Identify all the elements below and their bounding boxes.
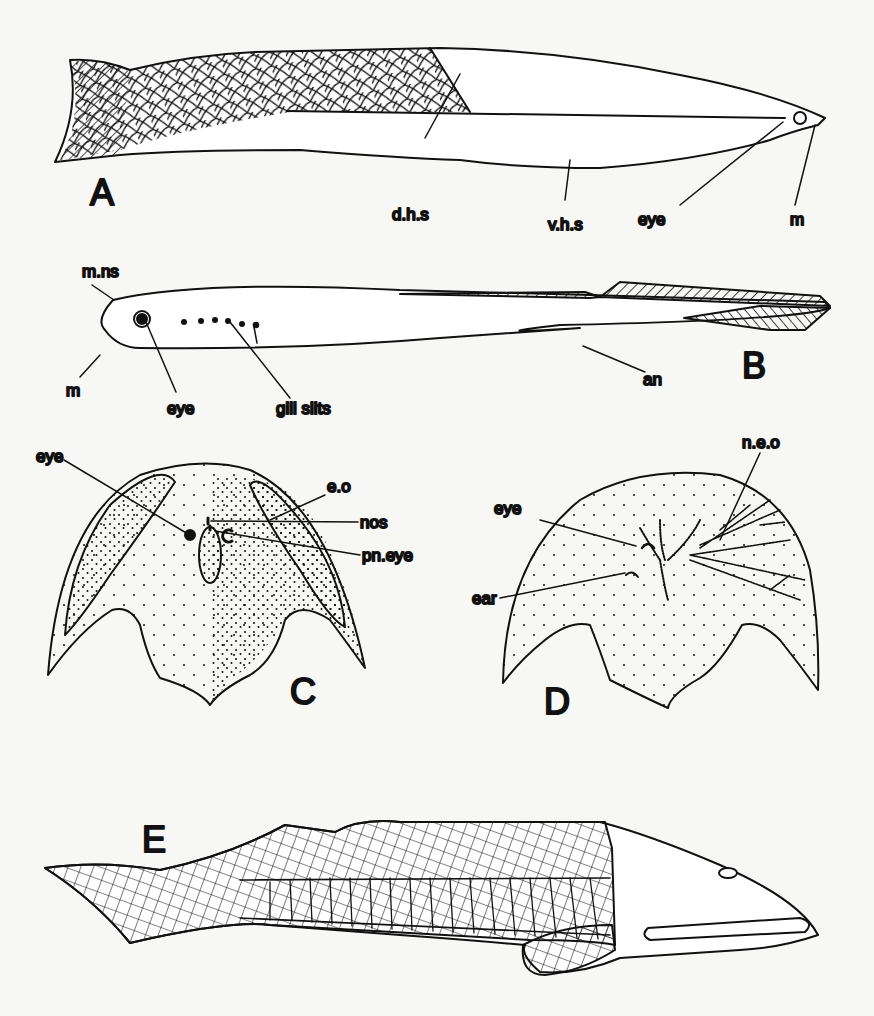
label-mns: m.ns xyxy=(82,262,119,281)
label-neo: n.e.o xyxy=(742,433,780,452)
label-pn-eye: pn.eye xyxy=(362,546,413,565)
label-an: an xyxy=(643,370,662,389)
panel-label-a: A xyxy=(90,172,114,213)
panel-b-fish xyxy=(80,282,830,398)
label-m-a: m xyxy=(790,210,804,229)
panel-label-b: B xyxy=(742,345,766,386)
label-eye-d: eye xyxy=(494,499,521,518)
panel-label-c: C xyxy=(290,671,316,712)
panel-d-head-shield xyxy=(500,453,818,708)
panel-label-d: D xyxy=(544,681,570,722)
label-ear: ear xyxy=(472,589,497,608)
label-eo: e.o xyxy=(327,477,351,496)
fossil-fish-figure: A d.h.s v.h.s eye m m.ns eye gill slits … xyxy=(0,0,874,1016)
label-m-b: m xyxy=(66,381,80,400)
label-dhs: d.h.s xyxy=(392,205,429,224)
label-eye-c: eye xyxy=(36,447,63,466)
label-vhs: v.h.s xyxy=(548,215,583,234)
panel-a-fish xyxy=(55,48,825,205)
label-nos: nos xyxy=(360,513,387,532)
panel-label-e: E xyxy=(142,819,166,860)
label-eye-a: eye xyxy=(638,210,665,229)
panel-c-head-shield xyxy=(48,460,365,705)
label-eye-b: eye xyxy=(167,399,194,418)
label-gill-slits: gill slits xyxy=(276,399,331,418)
